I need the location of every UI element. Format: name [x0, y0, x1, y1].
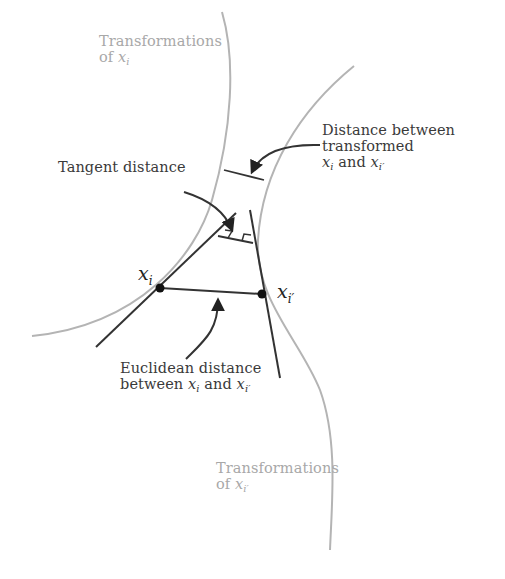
label-transformed-distance: Distance between transformed xi and xi′: [322, 122, 455, 175]
label-line: Distance between: [322, 122, 455, 138]
math-sub: i′: [379, 161, 385, 172]
arrow-transformed-distance: [252, 145, 320, 172]
math-sub: i: [149, 274, 153, 288]
label-transformations-xip: Transformations of xi′: [216, 460, 339, 497]
math-var: x: [138, 262, 149, 284]
arrow-euclidean-distance: [186, 300, 218, 359]
tangent-line-xi: [96, 213, 236, 347]
math-sub: i′: [243, 483, 249, 494]
math-var: x: [277, 280, 288, 302]
label-text: between: [120, 376, 188, 392]
label-transformations-xi: Transformations of xi: [99, 33, 222, 70]
point-xip: [258, 290, 267, 299]
label-line: Transformations: [216, 460, 339, 476]
math-sub: i′: [245, 383, 251, 394]
label-line: of xi: [99, 49, 222, 70]
label-line: between xi and xi′: [120, 376, 261, 397]
math-var: x: [371, 154, 379, 170]
point-xi: [156, 284, 165, 293]
point-label-xip: xi′: [277, 280, 294, 306]
math-sub: i′: [288, 292, 295, 306]
math-var: x: [237, 376, 245, 392]
label-text: and: [200, 376, 237, 392]
label-line: xi and xi′: [322, 154, 455, 175]
label-line: transformed: [322, 138, 455, 154]
label-text: of: [216, 476, 235, 492]
right-angle-marker-right: [242, 234, 251, 241]
label-tangent-distance: Tangent distance: [58, 159, 186, 175]
label-euclidean-distance: Euclidean distance between xi and xi′: [120, 360, 261, 397]
point-label-xi: xi: [138, 262, 153, 288]
label-line: Euclidean distance: [120, 360, 261, 376]
transformed-distance-segment: [224, 170, 264, 180]
euclidean-distance-segment: [160, 288, 262, 294]
label-text: Tangent distance: [58, 159, 186, 175]
label-line: Transformations: [99, 33, 222, 49]
label-text: and: [334, 154, 371, 170]
label-text: of: [99, 49, 118, 65]
tangent-distance-segment: [218, 236, 253, 243]
math-sub: i: [126, 56, 129, 67]
label-line: of xi′: [216, 476, 339, 497]
